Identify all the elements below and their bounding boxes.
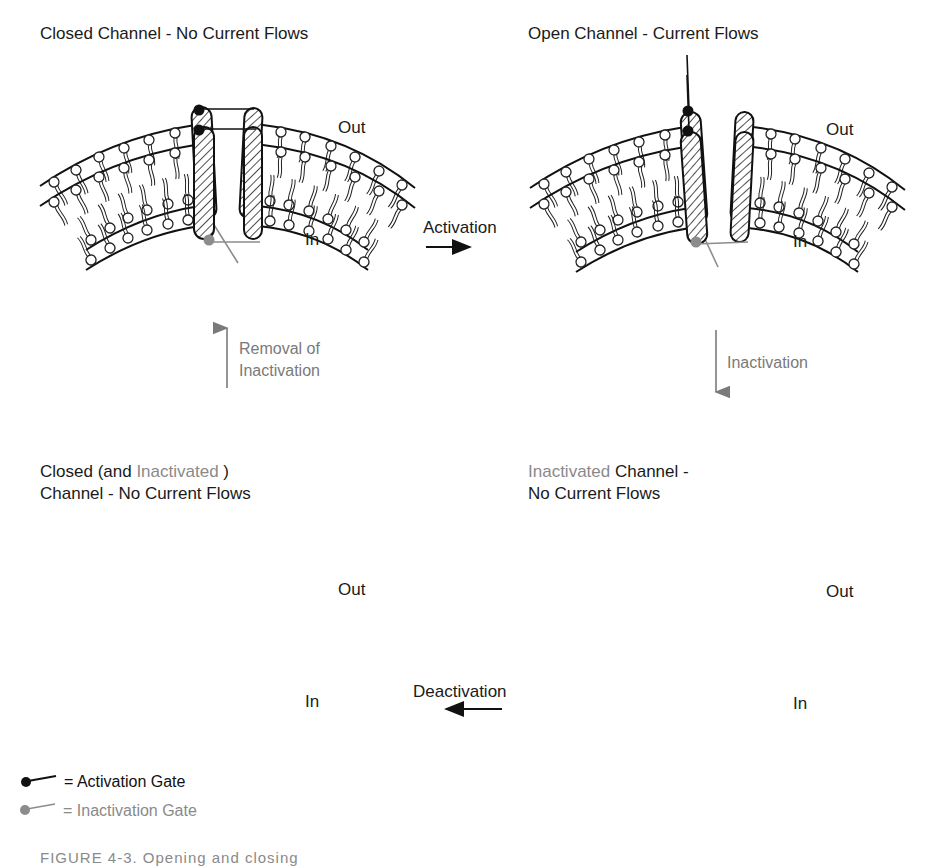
removal-of-inactivation-label-line1: Removal of: [239, 340, 320, 358]
activation-label: Activation: [423, 218, 497, 238]
panel-title-open: Open Channel - Current Flows: [528, 24, 759, 44]
title-suffix: Channel -: [610, 462, 688, 481]
in-label: In: [793, 694, 807, 714]
panel-title-closed: Closed Channel - No Current Flows: [40, 24, 308, 44]
panel-title-inactivated-line1: Inactivated Channel -: [528, 462, 689, 482]
out-label: Out: [826, 582, 853, 602]
title-prefix: Closed (and: [40, 462, 136, 481]
panel-open-channel: [530, 55, 905, 267]
in-label: In: [305, 692, 319, 712]
panel-title-closed-inactivated-line2: Channel - No Current Flows: [40, 484, 251, 504]
activation-gate-dot: [194, 105, 205, 116]
removal-of-inactivation-label-line2: Inactivation: [239, 362, 320, 380]
legend-activation-gate: = Activation Gate: [64, 773, 185, 791]
title-gray-inactivated: Inactivated: [528, 462, 610, 481]
panel-inactivated-gates: [680, 75, 754, 248]
in-label: In: [305, 230, 319, 250]
deactivation-label: Deactivation: [413, 682, 507, 702]
panel-title-closed-inactivated-line1: Closed (and Inactivated ): [40, 462, 229, 482]
title-suffix: ): [219, 462, 229, 481]
out-label: Out: [338, 580, 365, 600]
panel-title-inactivated-line2: No Current Flows: [528, 484, 660, 504]
out-label: Out: [826, 120, 853, 140]
in-label: In: [793, 232, 807, 252]
out-label: Out: [338, 118, 365, 138]
title-gray-inactivated: Inactivated: [136, 462, 218, 481]
panel-closed-inactivated-gates: [194, 125, 263, 246]
figure-caption: FIGURE 4-3. Opening and closing: [40, 849, 299, 866]
activation-gate-legend-icon: [21, 776, 56, 787]
legend-inactivation-gate: = Inactivation Gate: [63, 802, 197, 820]
inactivation-label: Inactivation: [727, 354, 808, 372]
inactivation-gate-legend-icon: [20, 804, 55, 815]
